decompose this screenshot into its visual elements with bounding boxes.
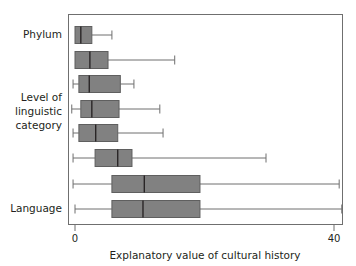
box-iqr (75, 52, 108, 69)
x-axis-ticks (75, 225, 334, 232)
box-iqr (79, 76, 120, 93)
category-label-level-line3: category (16, 119, 62, 131)
category-label-language: Language (10, 202, 62, 214)
x-tick-label-0: 0 (72, 233, 78, 244)
boxplot-figure: 0 40 Explanatory value of cultural histo… (0, 0, 356, 266)
category-label-level-line1: Level of (21, 91, 62, 103)
y-axis-category-labels: Phylum Level of linguistic category Lang… (10, 28, 62, 214)
category-label-phylum: Phylum (23, 28, 62, 40)
x-tick-label-40: 40 (328, 233, 341, 244)
box-iqr (112, 201, 200, 218)
plot-area-frame (69, 15, 343, 225)
box-iqr (81, 101, 119, 118)
box-iqr (112, 176, 200, 193)
x-axis-title: Explanatory value of cultural history (109, 249, 300, 261)
box-iqr (95, 150, 132, 167)
category-label-level-line2: linguistic (15, 105, 62, 117)
box-iqr (79, 125, 118, 142)
box-iqr (75, 27, 92, 44)
